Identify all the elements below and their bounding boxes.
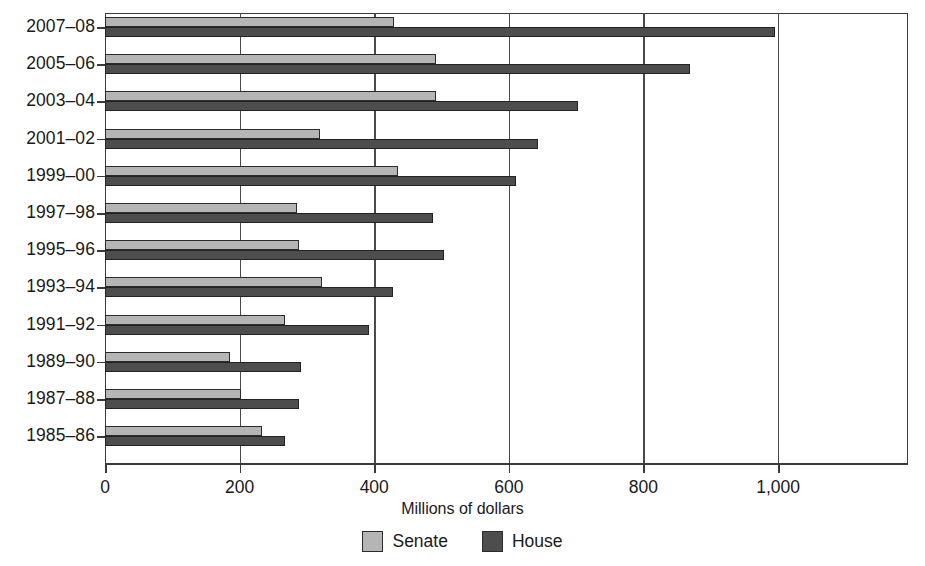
y-axis-label: 2005–06 <box>2 53 95 74</box>
bar-senate <box>105 277 322 287</box>
x-axis-tick <box>643 464 645 473</box>
legend-item-house: House <box>482 531 563 552</box>
y-axis-label: 1999–00 <box>2 165 95 186</box>
x-axis-tick-label: 600 <box>494 477 523 498</box>
y-axis-label: 1991–92 <box>2 314 95 335</box>
x-axis-tick <box>778 464 780 473</box>
x-axis-tick-label: 0 <box>100 477 110 498</box>
legend: Senate House <box>0 531 925 552</box>
bar-group <box>105 426 908 446</box>
bar-house <box>105 27 775 37</box>
y-axis-label: 1987–88 <box>2 388 95 409</box>
legend-swatch-senate <box>362 531 383 552</box>
x-axis-tick <box>509 464 511 473</box>
x-axis-tick-label: 400 <box>360 477 389 498</box>
bar-house <box>105 64 690 74</box>
bar-group <box>105 129 908 149</box>
bar-group <box>105 91 908 111</box>
bar-senate <box>105 129 320 139</box>
bar-house <box>105 213 433 223</box>
y-axis-label: 1997–98 <box>2 202 95 223</box>
bar-senate <box>105 17 394 27</box>
bar-senate <box>105 426 262 436</box>
bar-group <box>105 315 908 335</box>
bar-house <box>105 436 285 446</box>
bar-house <box>105 101 578 111</box>
x-axis-title: Millions of dollars <box>0 500 925 518</box>
bar-house <box>105 250 444 260</box>
bar-senate <box>105 315 285 325</box>
bar-senate <box>105 240 299 250</box>
bar-house <box>105 399 299 409</box>
y-axis-label: 2007–08 <box>2 16 95 37</box>
bar-house <box>105 325 369 335</box>
x-axis-tick-label: 1,000 <box>756 477 800 498</box>
y-axis-label: 1995–96 <box>2 239 95 260</box>
bar-group <box>105 240 908 260</box>
x-axis-tick <box>374 464 376 473</box>
legend-item-senate: Senate <box>362 531 447 552</box>
x-axis-tick-label: 200 <box>225 477 254 498</box>
y-axis-label: 1993–94 <box>2 276 95 297</box>
bar-group <box>105 389 908 409</box>
bar-chart: 2007–082005–062003–042001–021999–001997–… <box>0 0 925 566</box>
bar-group <box>105 17 908 37</box>
bar-house <box>105 287 393 297</box>
y-axis-label: 2003–04 <box>2 90 95 111</box>
bar-senate <box>105 352 230 362</box>
legend-swatch-house <box>482 531 503 552</box>
x-axis-tick-label: 800 <box>629 477 658 498</box>
y-axis-label: 1985–86 <box>2 425 95 446</box>
legend-label-senate: Senate <box>392 531 447 552</box>
bar-senate <box>105 54 436 64</box>
bar-senate <box>105 91 436 101</box>
x-axis-tick <box>240 464 242 473</box>
bar-group <box>105 352 908 372</box>
bar-senate <box>105 203 297 213</box>
bar-group <box>105 54 908 74</box>
bar-senate <box>105 389 241 399</box>
bar-house <box>105 176 516 186</box>
bar-house <box>105 139 538 149</box>
bar-house <box>105 362 301 372</box>
y-axis-label: 2001–02 <box>2 128 95 149</box>
bar-group <box>105 166 908 186</box>
bar-senate <box>105 166 398 176</box>
bar-group <box>105 203 908 223</box>
bar-group <box>105 277 908 297</box>
x-axis-line <box>105 463 908 465</box>
y-axis-label: 1989–90 <box>2 351 95 372</box>
x-axis-tick <box>105 464 107 473</box>
legend-label-house: House <box>512 531 563 552</box>
